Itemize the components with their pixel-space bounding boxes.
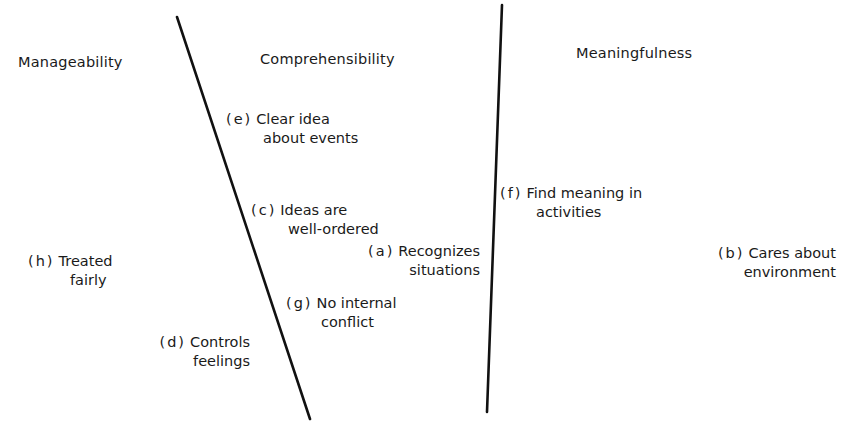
item-text-line1: Recognizes	[398, 243, 480, 259]
item-h-treated-fairly: (h)Treated fairly	[28, 252, 113, 290]
item-tag: (e)	[226, 110, 252, 129]
item-c-ideas-well-ordered: (c)Ideas are well-ordered	[251, 201, 379, 239]
heading-meaningfulness: Meaningfulness	[576, 45, 692, 61]
item-g-no-internal-conflict: (g)No internal conflict	[286, 294, 397, 332]
item-tag: (g)	[286, 294, 313, 313]
item-text-line1: Clear idea	[256, 111, 330, 127]
item-tag: (c)	[251, 201, 276, 220]
item-text-line2: situations	[358, 261, 480, 280]
item-tag: (h)	[28, 252, 55, 271]
item-f-find-meaning: (f)Find meaning in activities	[500, 184, 642, 222]
item-text-line1: Controls	[190, 334, 250, 350]
item-text-line2: environment	[700, 263, 836, 282]
item-e-clear-idea: (e)Clear idea about events	[226, 110, 358, 148]
item-text-line2: conflict	[286, 313, 397, 332]
item-text-line2: fairly	[28, 271, 113, 290]
heading-manageability: Manageability	[18, 54, 123, 70]
item-tag: (d)	[160, 333, 187, 352]
item-text-line1: Find meaning in	[526, 185, 642, 201]
item-tag: (b)	[718, 244, 745, 263]
item-a-recognizes-situations: (a)Recognizes situations	[358, 242, 480, 280]
item-text-line1: Ideas are	[280, 202, 347, 218]
item-text-line2: feelings	[140, 352, 250, 371]
item-b-cares-about-environment: (b)Cares about environment	[700, 244, 836, 282]
item-text-line1: No internal	[317, 295, 397, 311]
item-d-controls-feelings: (d)Controls feelings	[140, 333, 250, 371]
divider-lines	[0, 0, 855, 432]
heading-comprehensibility: Comprehensibility	[260, 51, 395, 67]
item-tag: (f)	[500, 184, 522, 203]
item-text-line2: activities	[500, 203, 642, 222]
item-tag: (a)	[368, 242, 394, 261]
item-text-line2: about events	[226, 129, 358, 148]
item-text-line1: Cares about	[748, 245, 836, 261]
item-text-line2: well-ordered	[251, 220, 379, 239]
item-text-line1: Treated	[59, 253, 113, 269]
sense-of-coherence-diagram: Manageability Comprehensibility Meaningf…	[0, 0, 855, 432]
